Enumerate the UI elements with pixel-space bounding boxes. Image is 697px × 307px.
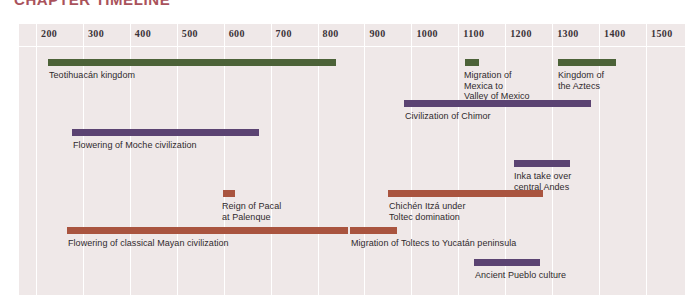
timeline-bar-label: Flowering of classical Mayan civilizatio… <box>68 238 229 249</box>
timeline-bar[interactable] <box>72 129 259 136</box>
axis-tick-label-300: 300 <box>88 28 104 39</box>
timeline-chart-panel: 2003004005006007008009001000110012001300… <box>18 24 685 295</box>
axis-tick-label-1000: 1000 <box>416 28 438 39</box>
timeline-bar-label: Migration of Mexica to Valley of Mexico <box>464 70 530 102</box>
page-title: CHAPTER TIMELINE <box>14 0 170 8</box>
axis-tick-label-900: 900 <box>369 28 385 39</box>
gridline-1000 <box>411 24 412 295</box>
timeline-bar[interactable] <box>474 259 540 266</box>
axis-tick-label-1200: 1200 <box>510 28 532 39</box>
timeline-bar[interactable] <box>558 59 616 66</box>
timeline-bar-label: Civilization of Chimor <box>405 111 491 122</box>
gridline-panel-left <box>18 24 19 295</box>
axis-tick-label-400: 400 <box>135 28 151 39</box>
timeline-bar[interactable] <box>223 190 235 197</box>
gridline-1500 <box>646 24 647 295</box>
gridline-900 <box>364 24 365 295</box>
timeline-bar-label: Teotihuacán kingdom <box>49 70 135 81</box>
axis-tick-label-200: 200 <box>41 28 57 39</box>
timeline-bar[interactable] <box>388 190 543 197</box>
timeline-bar[interactable] <box>48 59 336 66</box>
gridline-1200 <box>505 24 506 295</box>
timeline-bar[interactable] <box>514 160 570 167</box>
axis-tick-label-800: 800 <box>323 28 339 39</box>
gridline-200 <box>36 24 37 295</box>
axis-separator-rule <box>18 46 685 47</box>
axis-tick-label-600: 600 <box>229 28 245 39</box>
axis-tick-label-1500: 1500 <box>651 28 673 39</box>
timeline-bar[interactable] <box>67 227 348 234</box>
timeline-bar[interactable] <box>350 227 397 234</box>
timeline-bar-label: Migration of Toltecs to Yucatán peninsul… <box>351 238 516 249</box>
timeline-bar[interactable] <box>465 59 479 66</box>
axis-tick-label-1100: 1100 <box>463 28 484 39</box>
axis-tick-label-700: 700 <box>276 28 292 39</box>
timeline-bar-label: Kingdom of the Aztecs <box>558 70 604 91</box>
timeline-bar[interactable] <box>404 100 591 107</box>
timeline-bar-label: Chichén Itzá under Toltec domination <box>389 201 465 222</box>
axis-tick-label-1400: 1400 <box>604 28 626 39</box>
timeline-bar-label: Inka take over central Andes <box>514 171 571 192</box>
timeline-bar-label: Reign of Pacal at Palenque <box>222 201 281 222</box>
gridline-1100 <box>458 24 459 295</box>
timeline-bar-label: Ancient Pueblo culture <box>475 270 566 281</box>
axis-tick-label-1300: 1300 <box>557 28 579 39</box>
axis-tick-label-500: 500 <box>182 28 198 39</box>
timeline-bar-label: Flowering of Moche civilization <box>73 140 197 151</box>
